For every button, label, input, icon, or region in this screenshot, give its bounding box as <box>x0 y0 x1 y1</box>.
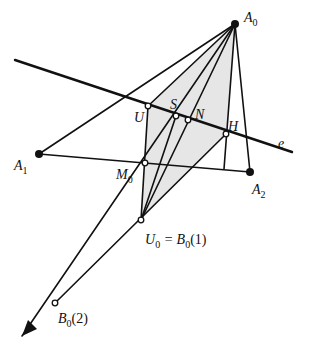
point-s <box>173 113 179 119</box>
point-n <box>185 117 191 123</box>
point-a0 <box>231 20 239 28</box>
label-a1: A1 <box>13 158 28 176</box>
arrow-head-icon <box>22 320 37 336</box>
point-b02 <box>52 300 58 306</box>
point-a2 <box>246 168 254 176</box>
label-b02: B0(2) <box>58 311 88 329</box>
label-n: N <box>194 107 205 122</box>
point-m0 <box>142 160 148 166</box>
label-u0-b01: U0 = B0(1) <box>145 232 207 250</box>
label-e: e <box>278 136 284 151</box>
label-s: S <box>170 97 177 112</box>
point-a1 <box>35 150 43 158</box>
point-u0 <box>138 217 144 223</box>
line-a0-a2 <box>235 24 250 172</box>
label-a2: A2 <box>251 182 266 200</box>
diagram-canvas: A0 A1 A2 U S N H M0 U0 = B0(1) B0(2) e <box>0 0 311 354</box>
label-h: H <box>227 119 239 134</box>
label-m0: M0 <box>115 167 133 185</box>
point-u <box>145 103 151 109</box>
geometry-diagram: A0 A1 A2 U S N H M0 U0 = B0(1) B0(2) e <box>0 0 311 354</box>
label-u: U <box>134 110 145 125</box>
label-a0: A0 <box>243 10 258 28</box>
